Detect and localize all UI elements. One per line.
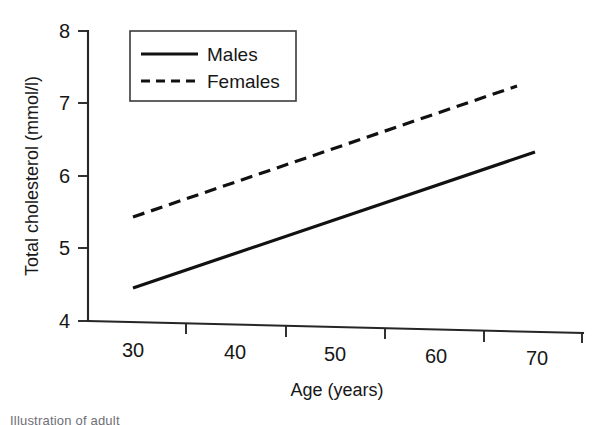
x-tick-label-60: 60 — [425, 345, 447, 367]
y-tick-label-4: 4 — [59, 310, 70, 332]
figure-container: 8 7 6 5 4 Total cholesterol (mmol/l) 30 … — [0, 0, 605, 425]
y-tick-label-5: 5 — [59, 237, 70, 259]
x-tick-label-30: 30 — [122, 339, 144, 361]
legend: Males Females — [130, 31, 296, 101]
caption-fragment: Illustration of adult — [10, 413, 130, 425]
legend-label-males: Males — [207, 44, 258, 65]
x-axis-title: Age (years) — [290, 380, 383, 400]
legend-label-females: Females — [207, 71, 280, 92]
x-axis: 30 40 50 60 70 Age (years) — [88, 321, 583, 400]
series-group — [133, 86, 535, 288]
line-chart: 8 7 6 5 4 Total cholesterol (mmol/l) 30 … — [0, 0, 605, 425]
y-tick-label-7: 7 — [59, 92, 70, 114]
x-tick-label-40: 40 — [224, 341, 246, 363]
y-tick-label-8: 8 — [59, 20, 70, 42]
x-tick-label-50: 50 — [324, 343, 346, 365]
y-axis-title: Total cholesterol (mmol/l) — [22, 76, 42, 276]
y-axis: 8 7 6 5 4 Total cholesterol (mmol/l) — [22, 20, 88, 332]
series-males-line — [133, 152, 535, 288]
x-axis-line — [88, 321, 583, 333]
y-tick-label-6: 6 — [59, 165, 70, 187]
x-tick-label-70: 70 — [526, 347, 548, 369]
series-females-line — [133, 86, 517, 217]
